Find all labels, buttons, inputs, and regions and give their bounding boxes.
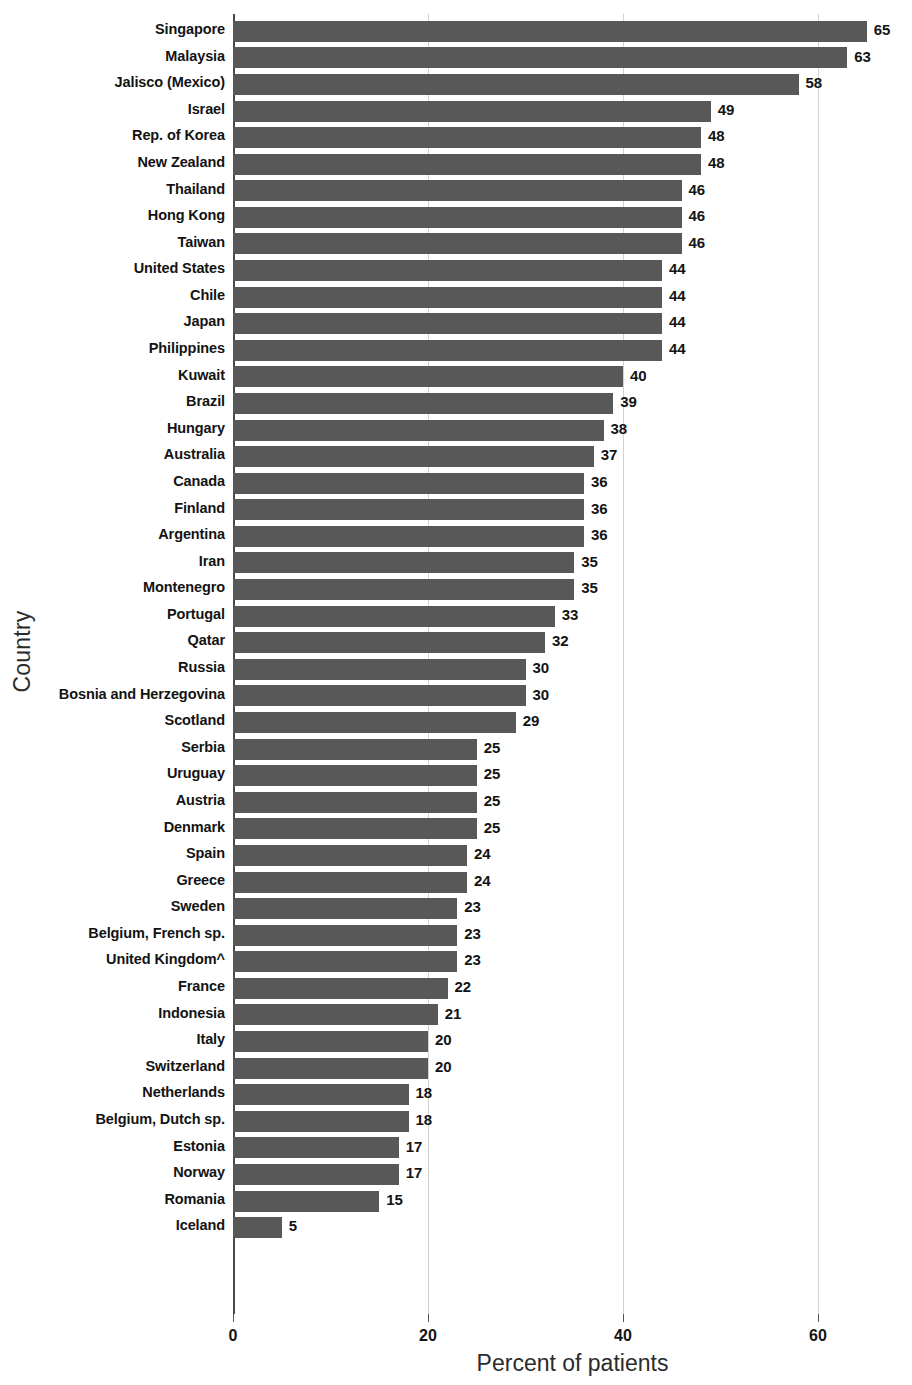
bar (233, 606, 555, 627)
bar (233, 260, 662, 281)
category-label: Belgium, Dutch sp. (95, 1111, 225, 1127)
category-label: Montenegro (143, 579, 225, 595)
x-tick-label: 0 (229, 1327, 238, 1345)
bar-row: Kuwait40 (233, 364, 912, 391)
bar (233, 579, 574, 600)
bar-value-label: 24 (474, 872, 491, 889)
category-label: United States (134, 260, 225, 276)
bar-value-label: 65 (874, 21, 891, 38)
bar-value-label: 44 (669, 287, 686, 304)
bar-row: Spain24 (233, 842, 912, 869)
bar-value-label: 25 (484, 739, 501, 756)
bar-row: Japan44 (233, 310, 912, 337)
bar-row: Estonia17 (233, 1135, 912, 1162)
bar-value-label: 36 (591, 473, 608, 490)
x-tick-mark (428, 1314, 429, 1322)
bar (233, 499, 584, 520)
bar (233, 792, 477, 813)
bar-row: Australia37 (233, 443, 912, 470)
category-label: Iran (199, 553, 225, 569)
bar (233, 101, 711, 122)
bar (233, 1004, 438, 1025)
bar-row: Italy20 (233, 1028, 912, 1055)
category-label: Japan (184, 313, 225, 329)
bar-value-label: 18 (416, 1111, 433, 1128)
x-tick-label: 60 (809, 1327, 827, 1345)
bar (233, 845, 467, 866)
bar-row: Austria25 (233, 789, 912, 816)
bar-row: Scotland29 (233, 709, 912, 736)
category-label: Uruguay (167, 765, 225, 781)
bar-value-label: 29 (523, 712, 540, 729)
bar-row: Singapore65 (233, 18, 912, 45)
bar (233, 552, 574, 573)
bar (233, 47, 847, 68)
category-label: Switzerland (146, 1058, 225, 1074)
bar-row: Taiwan46 (233, 231, 912, 258)
bar-value-label: 23 (464, 951, 481, 968)
category-label: France (178, 978, 225, 994)
category-label: Norway (173, 1164, 225, 1180)
bar (233, 818, 477, 839)
category-label: Argentina (158, 526, 225, 542)
bar (233, 951, 457, 972)
bar-value-label: 20 (435, 1058, 452, 1075)
bar-value-label: 46 (689, 207, 706, 224)
category-label: Italy (196, 1031, 225, 1047)
bar-value-label: 39 (620, 393, 637, 410)
bar (233, 898, 457, 919)
bar-row: Thailand46 (233, 178, 912, 205)
bar-value-label: 32 (552, 632, 569, 649)
bar-row: Netherlands18 (233, 1081, 912, 1108)
category-label: Philippines (149, 340, 225, 356)
bar-value-label: 35 (581, 553, 598, 570)
bar (233, 180, 682, 201)
bar-value-label: 46 (689, 234, 706, 251)
bar-row: Romania15 (233, 1188, 912, 1215)
category-label: Serbia (181, 739, 225, 755)
category-label: Indonesia (158, 1005, 225, 1021)
bar-value-label: 48 (708, 127, 725, 144)
bar-row: Jalisco (Mexico)58 (233, 71, 912, 98)
category-label: Austria (176, 792, 225, 808)
bar-row: Hong Kong46 (233, 204, 912, 231)
category-label: Hong Kong (148, 207, 225, 223)
bar-row: Iran35 (233, 550, 912, 577)
bar (233, 420, 604, 441)
category-label: Rep. of Korea (132, 127, 225, 143)
bar-value-label: 30 (533, 686, 550, 703)
bar (233, 473, 584, 494)
bar-value-label: 5 (289, 1217, 297, 1234)
bar-value-label: 38 (611, 420, 628, 437)
bar-row: Hungary38 (233, 417, 912, 444)
bar (233, 659, 526, 680)
bar-value-label: 44 (669, 260, 686, 277)
bar (233, 712, 516, 733)
x-tick-label: 40 (614, 1327, 632, 1345)
category-label: Thailand (166, 181, 225, 197)
x-axis-title: Percent of patients (233, 1350, 912, 1377)
x-tick-label: 20 (419, 1327, 437, 1345)
bar-value-label: 44 (669, 313, 686, 330)
bar (233, 1031, 428, 1052)
bar-value-label: 17 (406, 1138, 423, 1155)
category-label: Bosnia and Herzegovina (59, 686, 225, 702)
x-tick-mark (233, 1314, 234, 1322)
bar-value-label: 46 (689, 181, 706, 198)
bar (233, 925, 457, 946)
category-label: Estonia (173, 1138, 225, 1154)
bar-row: Belgium, Dutch sp.18 (233, 1108, 912, 1135)
bar-row: Canada36 (233, 470, 912, 497)
bar (233, 287, 662, 308)
bar-row: Montenegro35 (233, 576, 912, 603)
bar-row: Belgium, French sp.23 (233, 922, 912, 949)
bar (233, 366, 623, 387)
category-label: Israel (188, 101, 225, 117)
category-label: Canada (173, 473, 225, 489)
bar-row: New Zealand48 (233, 151, 912, 178)
category-label: Qatar (188, 632, 225, 648)
bar-value-label: 25 (484, 819, 501, 836)
bar (233, 154, 701, 175)
bar (233, 446, 594, 467)
bar (233, 233, 682, 254)
